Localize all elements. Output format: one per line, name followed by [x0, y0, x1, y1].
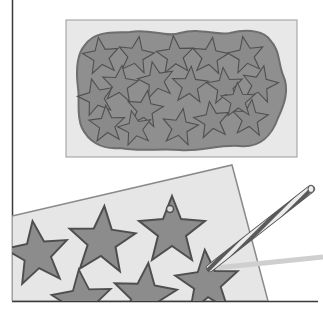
bottom-panel — [1, 165, 323, 319]
punched-hole — [167, 206, 174, 213]
top-panel — [66, 20, 297, 157]
illustration — [0, 0, 323, 319]
